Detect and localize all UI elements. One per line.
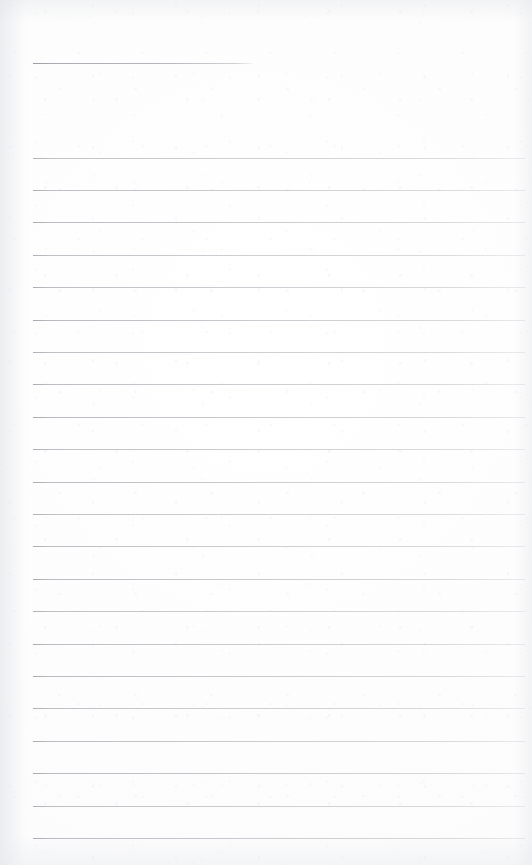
body-rule [33, 579, 525, 580]
body-rule [33, 514, 525, 515]
writing-area [0, 0, 532, 865]
body-rule [33, 644, 525, 645]
scanned-page [0, 0, 532, 865]
body-rule [33, 611, 525, 612]
body-rule [33, 287, 525, 288]
body-rule [33, 352, 525, 353]
body-rule [33, 158, 525, 159]
body-rule [33, 773, 525, 774]
body-rule [33, 838, 525, 839]
body-rule [33, 482, 525, 483]
body-rule [33, 546, 525, 547]
body-rule [33, 676, 525, 677]
header-rule [33, 63, 253, 64]
body-rule [33, 190, 525, 191]
body-rule [33, 320, 525, 321]
body-rule [33, 741, 525, 742]
body-rule [33, 417, 525, 418]
body-rule [33, 222, 525, 223]
body-rule [33, 708, 525, 709]
body-rule [33, 806, 525, 807]
body-rule [33, 255, 525, 256]
body-rule [33, 449, 525, 450]
body-rule [33, 384, 525, 385]
